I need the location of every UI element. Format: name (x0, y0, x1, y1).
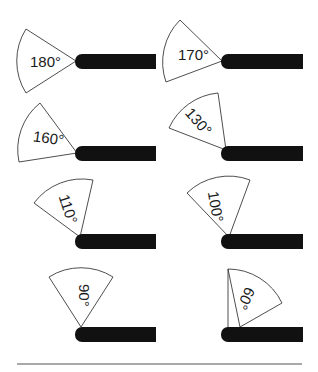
angle-label: 170° (178, 46, 209, 63)
arm-bar-end (85, 146, 156, 161)
angle-figure-170: 170° (163, 20, 303, 82)
angle-figure-90: 90° (49, 268, 156, 342)
arm-bar-end (85, 234, 156, 249)
angle-figure-110: 110° (34, 179, 156, 249)
angle-figure-160: 160° (18, 103, 156, 162)
angle-label: 180° (30, 53, 61, 70)
angle-figure-60: 60° (221, 269, 303, 342)
arm-bar-end (231, 146, 303, 161)
angle-diagram: 180° 170° 160° 130° 110° 100° (0, 0, 318, 372)
angle-figure-130: 130° (169, 93, 303, 161)
arm-bar-end (231, 54, 303, 69)
arm-bar-end (85, 54, 156, 69)
arm-bar-end (85, 327, 156, 342)
arm-bar-end (231, 327, 303, 342)
arm-bar-end (231, 234, 303, 249)
angle-figure-180: 180° (17, 29, 156, 93)
angle-label: 90° (76, 284, 93, 307)
angle-figure-100: 100° (187, 176, 303, 249)
